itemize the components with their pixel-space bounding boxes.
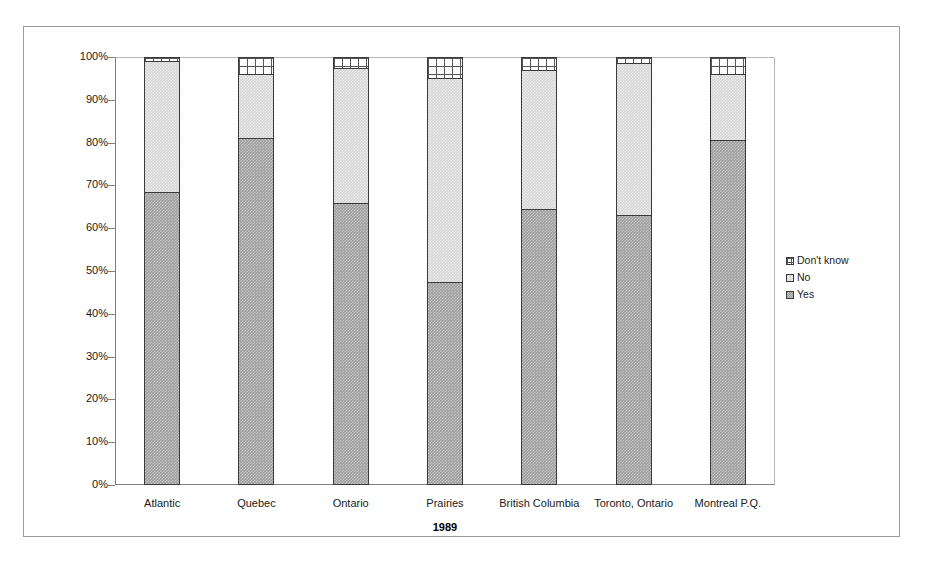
bar-segment-no[interactable] — [333, 68, 369, 203]
legend-item-label: Don't know — [797, 253, 849, 268]
bar-segment-yes[interactable] — [238, 138, 274, 485]
bar-segment-don-t-know[interactable] — [333, 57, 369, 68]
legend-item-label: No — [797, 270, 810, 285]
bar-segment-no[interactable] — [521, 70, 557, 209]
legend-item[interactable]: No — [786, 270, 849, 285]
x-axis-tick-label: Prairies — [392, 497, 498, 510]
y-axis-tick-label: 20% — [48, 393, 108, 404]
bar-segment-don-t-know[interactable] — [521, 57, 557, 70]
x-axis-title-text: 1989 — [433, 521, 457, 533]
y-axis-tick-label: 30% — [48, 351, 108, 362]
stacked-bar[interactable] — [427, 57, 463, 485]
stacked-bar[interactable] — [238, 57, 274, 485]
stacked-bar[interactable] — [616, 57, 652, 485]
yes-swatch-icon — [786, 291, 794, 299]
bar-segment-no[interactable] — [144, 61, 180, 192]
y-axis-tick-label: 80% — [48, 137, 108, 148]
y-axis-tick-mark — [108, 442, 115, 443]
bar-segment-don-t-know[interactable] — [710, 57, 746, 74]
y-axis-tick-label: 100% — [48, 51, 108, 62]
y-axis-tick-label: 0% — [48, 479, 108, 490]
y-axis-tick-mark — [108, 271, 115, 272]
bar-segment-yes[interactable] — [144, 192, 180, 485]
no-swatch-icon — [786, 274, 794, 282]
x-axis-title: 1989 — [0, 521, 926, 533]
bar-segment-yes[interactable] — [427, 282, 463, 485]
y-axis-tick-label: 60% — [48, 222, 108, 233]
bar-segment-yes[interactable] — [710, 140, 746, 485]
y-axis-tick-label: 70% — [48, 179, 108, 190]
stacked-bar[interactable] — [521, 57, 557, 485]
bar-segment-no[interactable] — [710, 74, 746, 140]
x-axis-tick-label: Atlantic — [109, 497, 215, 510]
x-axis-tick-label: Quebec — [203, 497, 309, 510]
y-axis-tick-label: 90% — [48, 94, 108, 105]
stacked-bar[interactable] — [333, 57, 369, 485]
bar-segment-yes[interactable] — [333, 203, 369, 485]
bar-segment-yes[interactable] — [521, 209, 557, 485]
y-axis-tick-label: 50% — [48, 265, 108, 276]
y-axis-tick-mark — [108, 228, 115, 229]
x-axis-tick-label: Montreal P.Q. — [675, 497, 781, 510]
bar-segment-no[interactable] — [616, 63, 652, 215]
y-axis-tick-mark — [108, 57, 115, 58]
bar-segment-no[interactable] — [427, 78, 463, 281]
chart-legend: Don't knowNoYes — [786, 253, 849, 304]
y-axis-tick-label: 10% — [48, 436, 108, 447]
x-axis-tick-label: Toronto, Ontario — [580, 497, 686, 510]
bar-segment-don-t-know[interactable] — [238, 57, 274, 74]
y-axis-tick-mark — [108, 485, 115, 486]
y-axis-tick-label: 40% — [48, 308, 108, 319]
y-axis-tick-mark — [108, 185, 115, 186]
y-axis-tick-mark — [108, 314, 115, 315]
y-axis-tick-mark — [108, 143, 115, 144]
stacked-bar[interactable] — [144, 57, 180, 485]
legend-item[interactable]: Yes — [786, 287, 849, 302]
bar-segment-no[interactable] — [238, 74, 274, 138]
bar-segment-yes[interactable] — [616, 215, 652, 485]
y-axis-tick-mark — [108, 399, 115, 400]
chart-page: 100%90%80%70%60%50%40%30%20%10%0% Atlant… — [0, 0, 926, 567]
legend-item-label: Yes — [797, 287, 814, 302]
dont-know-swatch-icon — [786, 257, 794, 265]
stacked-bar[interactable] — [710, 57, 746, 485]
x-axis-tick-label: Ontario — [298, 497, 404, 510]
bar-segment-don-t-know[interactable] — [427, 57, 463, 78]
y-axis-tick-mark — [108, 357, 115, 358]
legend-item[interactable]: Don't know — [786, 253, 849, 268]
x-axis-tick-label: British Columbia — [486, 497, 592, 510]
y-axis-tick-mark — [108, 100, 115, 101]
